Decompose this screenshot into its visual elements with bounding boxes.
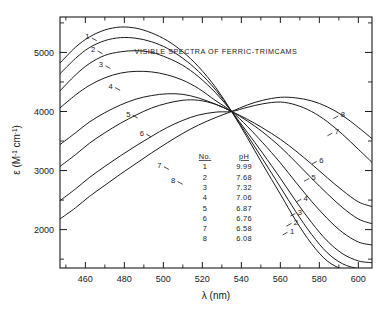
y-tick-label: 2000 xyxy=(34,225,54,235)
curve-label-3: 3 xyxy=(99,60,103,69)
curve-label-1: 1 xyxy=(85,32,89,41)
curve-label-6: 6 xyxy=(140,129,144,138)
curve-2 xyxy=(60,37,372,269)
legend-row-number: 3 xyxy=(203,183,207,192)
legend-row-ph: 7.32 xyxy=(236,183,252,192)
curve-1 xyxy=(60,27,372,271)
legend-header-no: No. xyxy=(199,152,211,161)
legend-row-ph: 7.68 xyxy=(236,173,252,182)
curve-label-5: 5 xyxy=(311,173,315,182)
curve-label-2: 2 xyxy=(91,45,95,54)
x-tick-label: 480 xyxy=(117,274,132,284)
legend-row-ph: 6.76 xyxy=(236,214,252,223)
y-axis-ticks xyxy=(60,23,372,259)
curve-label-1: 1 xyxy=(290,227,294,236)
spectra-curves xyxy=(60,27,372,271)
legend-row-number: 2 xyxy=(203,173,207,182)
curve-label-8: 8 xyxy=(171,176,175,185)
x-tick-label: 500 xyxy=(156,274,171,284)
curve-label-5: 5 xyxy=(126,110,130,119)
y-tick-label: 3000 xyxy=(34,166,54,176)
x-tick-label: 580 xyxy=(312,274,327,284)
x-tick-label: 520 xyxy=(195,274,210,284)
legend-row-ph: 7.06 xyxy=(236,193,252,202)
curve-label-4: 4 xyxy=(109,82,113,91)
curve-5 xyxy=(60,94,372,224)
y-tick-label: 4000 xyxy=(34,107,54,117)
curve-6 xyxy=(60,100,372,207)
x-tick-label: 600 xyxy=(351,274,366,284)
legend-row-number: 6 xyxy=(203,214,207,223)
curve-label-2: 2 xyxy=(294,218,298,227)
legend-row-ph: 6.58 xyxy=(236,224,252,233)
chart-title: VISIBLE SPECTRA OF FERRIC-TRIMCAMS xyxy=(135,47,298,56)
curve-labels: 1234567887654321 xyxy=(85,32,345,235)
curve-7 xyxy=(60,102,372,201)
curve-label-3: 3 xyxy=(298,208,302,217)
curve-3 xyxy=(60,51,372,263)
legend-row-ph: 9.99 xyxy=(236,162,252,171)
spectra-chart: 460480500520540560580600 200030004000500… xyxy=(0,0,391,313)
legend-row-number: 8 xyxy=(203,234,207,243)
curve-label-8: 8 xyxy=(341,110,345,119)
curve-4 xyxy=(60,71,372,245)
x-tick-label: 460 xyxy=(78,274,93,284)
legend-row-number: 4 xyxy=(203,193,207,202)
series-legend: No.pH19.9927.6837.3247.0656.8766.7676.58… xyxy=(199,152,252,243)
x-tick-label: 540 xyxy=(234,274,249,284)
figure-container: 460480500520540560580600 200030004000500… xyxy=(0,0,391,313)
y-axis-title: ε (M-1 cm-1) xyxy=(11,125,22,175)
y-axis-tick-labels: 2000300040005000 xyxy=(34,48,54,235)
x-axis-title: λ (nm) xyxy=(202,290,230,301)
curve-label-7: 7 xyxy=(335,127,339,136)
x-axis-tick-labels: 460480500520540560580600 xyxy=(78,274,366,284)
y-tick-label: 5000 xyxy=(34,48,54,58)
curve-8 xyxy=(60,97,372,219)
curve-label-7: 7 xyxy=(157,161,161,170)
legend-row-number: 1 xyxy=(203,162,207,171)
legend-row-ph: 6.87 xyxy=(236,204,252,213)
x-tick-label: 560 xyxy=(273,274,288,284)
legend-row-number: 5 xyxy=(203,204,207,213)
curve-label-4: 4 xyxy=(304,194,308,203)
legend-row-ph: 6.08 xyxy=(236,234,252,243)
legend-row-number: 7 xyxy=(203,224,207,233)
curve-label-6: 6 xyxy=(319,156,323,165)
legend-header-ph: pH xyxy=(239,152,249,161)
